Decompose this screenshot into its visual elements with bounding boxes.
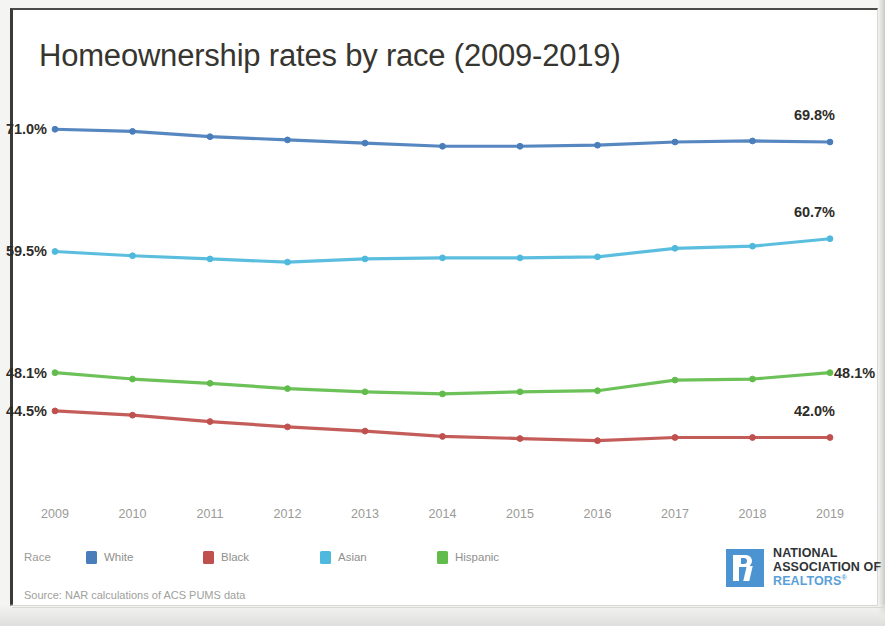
legend-label-hispanic: Hispanic [455, 551, 499, 563]
nar-logo-text: NATIONAL ASSOCIATION OF REALTORS® [773, 547, 881, 589]
chart-legend: Race White Black Asian Hispanic [24, 548, 554, 566]
legend-item-black[interactable]: Black [203, 551, 320, 564]
legend-label-black: Black [221, 551, 249, 563]
page-title: Homeownership rates by race (2009-2019) [39, 38, 621, 74]
nar-logo-line1: NATIONAL [773, 547, 881, 561]
legend-item-hispanic[interactable]: Hispanic [437, 551, 554, 564]
legend-label-white: White [104, 551, 133, 563]
scan-seam [878, 0, 885, 626]
legend-swatch-white [86, 551, 97, 564]
chart-frame: Homeownership rates by race (2009-2019) [10, 8, 878, 606]
legend-item-white[interactable]: White [86, 551, 203, 564]
legend-title: Race [24, 551, 86, 563]
legend-label-asian: Asian [338, 551, 367, 563]
nar-logo-mark-icon [726, 549, 764, 587]
scan-bottom-shadow [0, 604, 885, 626]
nar-logo-line3: REALTORS® [773, 574, 881, 589]
nar-logo-line2: ASSOCIATION OF [773, 561, 881, 575]
legend-swatch-hispanic [437, 551, 448, 564]
nar-logo: NATIONAL ASSOCIATION OF REALTORS® [726, 547, 881, 589]
source-note: Source: NAR calculations of ACS PUMS dat… [24, 589, 245, 601]
legend-swatch-asian [320, 551, 331, 564]
legend-swatch-black [203, 551, 214, 564]
legend-item-asian[interactable]: Asian [320, 551, 437, 564]
